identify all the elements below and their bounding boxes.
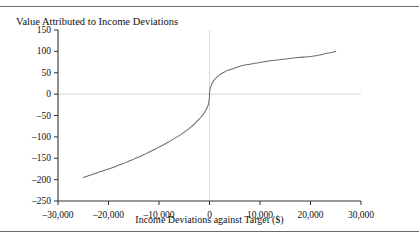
bottom-rule: [0, 231, 419, 232]
plot-area: [0, 24, 419, 206]
y-tick-label: –200: [17, 175, 51, 185]
y-tick-label: 0: [17, 89, 51, 99]
y-tick-label: 150: [17, 25, 51, 35]
figure-container: Value Attributed to Income Deviations 15…: [0, 0, 419, 239]
top-rule: [0, 6, 419, 7]
y-tick-label: –150: [17, 153, 51, 163]
x-axis-label: Income Deviations against Target ($): [0, 214, 419, 225]
y-tick-label: 50: [17, 68, 51, 78]
y-tick-label: –250: [17, 196, 51, 206]
y-tick-label: –50: [17, 111, 51, 121]
y-tick-label: 100: [17, 46, 51, 56]
y-tick-label: –100: [17, 132, 51, 142]
